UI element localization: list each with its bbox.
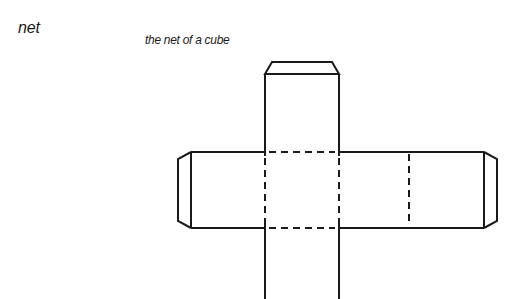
- top-flap: [265, 62, 339, 74]
- right-flap: [484, 152, 497, 228]
- cube-net-diagram: [0, 0, 516, 299]
- left-flap: [178, 152, 191, 228]
